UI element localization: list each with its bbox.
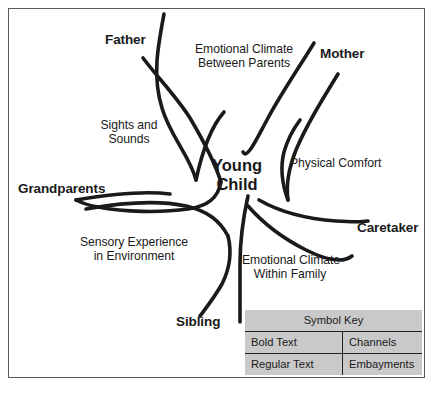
embayment-line1: Emotional Climate xyxy=(190,43,298,57)
channel-label-mother: Mother xyxy=(320,47,364,61)
symbol-key-symbol-regular-text: Regular Text xyxy=(245,354,343,376)
embayment-label-emotional-climate-between-parents: Emotional Climate Between Parents xyxy=(190,43,298,70)
embayment-line1: Sensory Experience xyxy=(74,236,194,250)
embayment-label-emotional-climate-within-family: Emotional Climate Within Family xyxy=(242,254,338,281)
symbol-key-meaning-channels: Channels xyxy=(343,332,423,354)
diagram-canvas: Young Child Father Mother Grandparents C… xyxy=(0,0,437,393)
symbol-key-row: Regular Text Embayments xyxy=(245,354,422,376)
channel-label-caretaker: Caretaker xyxy=(357,221,418,235)
embayment-line2: in Environment xyxy=(74,250,194,264)
symbol-key-header-row: Symbol Key xyxy=(245,310,422,332)
symbol-key-symbol-bold-text: Bold Text xyxy=(245,332,343,354)
embayment-line2: Sounds xyxy=(93,133,165,147)
channel-label-sibling: Sibling xyxy=(176,315,220,329)
embayment-label-sensory-experience-in-environment: Sensory Experience in Environment xyxy=(74,236,194,263)
embayment-label-sights-and-sounds: Sights and Sounds xyxy=(93,119,165,146)
embayment-line2: Between Parents xyxy=(190,57,298,71)
embayment-line1: Emotional Climate xyxy=(242,254,338,268)
center-node-line2: Child xyxy=(196,175,278,194)
channel-label-father: Father xyxy=(105,33,146,47)
symbol-key-meaning-embayments: Embayments xyxy=(343,354,423,376)
embayment-line2: Within Family xyxy=(242,268,338,282)
embayment-label-physical-comfort: Physical Comfort xyxy=(290,157,381,171)
symbol-key-row: Bold Text Channels xyxy=(245,332,422,354)
center-node-young-child: Young Child xyxy=(196,156,278,194)
symbol-key-table: Symbol Key Bold Text Channels Regular Te… xyxy=(245,310,422,375)
embayment-line1: Sights and xyxy=(93,119,165,133)
channel-label-grandparents: Grandparents xyxy=(18,182,105,196)
center-node-line1: Young xyxy=(196,156,278,175)
symbol-key-title: Symbol Key xyxy=(245,310,422,332)
embayment-line1: Physical Comfort xyxy=(290,157,381,171)
